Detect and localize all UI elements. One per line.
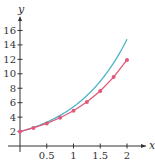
y-tick-label: 14 (3, 39, 16, 50)
x-axis-arrow-icon (141, 144, 146, 148)
y-tick-label: 12 (3, 54, 16, 65)
x-axis-label: x (149, 139, 155, 152)
data-point-marker (112, 75, 116, 79)
y-tick-label: 2 (10, 126, 16, 137)
data-point-marker (85, 100, 89, 104)
series-exact-curve (20, 39, 127, 131)
y-tick-label: 8 (10, 83, 16, 94)
y-tick-label: 10 (3, 68, 16, 79)
chart: xy0.511.52246810121416 (0, 0, 155, 164)
data-point-marker (45, 121, 49, 125)
data-point-marker (125, 58, 129, 62)
axes: xy0.511.52246810121416 (3, 3, 155, 161)
data-point-marker (58, 116, 62, 120)
y-axis-arrow-icon (18, 16, 22, 21)
series-layer (18, 39, 129, 133)
data-point-marker (98, 89, 102, 93)
y-axis-label: y (17, 3, 25, 16)
data-point-marker (72, 109, 76, 113)
x-tick-label: 2 (124, 150, 130, 161)
data-point-marker (18, 130, 22, 134)
series-approximation-line (20, 60, 127, 132)
x-tick-label: 1 (70, 150, 76, 161)
y-tick-label: 6 (10, 97, 16, 108)
x-tick-label: 1.5 (92, 150, 108, 161)
data-point-marker (31, 126, 35, 130)
y-tick-label: 16 (3, 25, 16, 36)
x-tick-label: 0.5 (39, 150, 55, 161)
y-tick-label: 4 (10, 112, 16, 123)
